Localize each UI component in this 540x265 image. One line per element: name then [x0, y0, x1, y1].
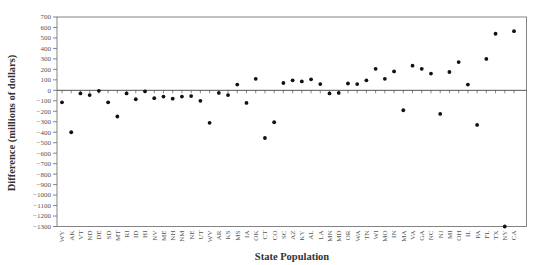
y-tick-label: −900 [37, 181, 52, 189]
y-tick-label: −800 [37, 171, 52, 179]
x-tick-label: OK [252, 231, 260, 241]
x-tick-label: RI [123, 230, 131, 238]
data-point-nc [429, 72, 433, 76]
data-point-la [318, 82, 322, 86]
data-point-pa [475, 123, 479, 127]
data-point-ne [189, 94, 193, 98]
data-point-az [291, 78, 295, 82]
x-axis-title: State Population [255, 251, 330, 262]
y-tick-label: 500 [41, 34, 52, 42]
x-tick-label: CT [261, 230, 269, 240]
data-point-mn [328, 92, 332, 96]
y-tick-label: −200 [37, 108, 52, 116]
y-axis-title: Difference (millions of dollars) [6, 54, 18, 191]
x-tick-label: SC [280, 230, 288, 239]
data-point-sd [106, 100, 110, 104]
x-tick-label: KS [224, 230, 232, 239]
y-tick-label: 300 [41, 55, 52, 63]
data-point-wy [60, 100, 64, 104]
x-tick-label: UT [197, 230, 205, 240]
data-point-ca [512, 29, 516, 33]
x-tick-label: AK [68, 231, 76, 241]
x-tick-label: NY [501, 231, 509, 241]
x-tick-label: NH [169, 231, 177, 241]
y-tick-label: −600 [37, 150, 52, 158]
data-point-fl [484, 57, 488, 61]
x-tick-label: WA [354, 231, 362, 242]
x-tick-label: ID [132, 231, 140, 238]
data-point-mt [115, 115, 119, 119]
x-tick-label: IN [390, 231, 398, 238]
data-point-mi [448, 70, 452, 74]
y-tick-label: 400 [41, 45, 52, 53]
data-point-wv [208, 121, 212, 125]
x-tick-label: MA [400, 231, 408, 242]
y-tick-label: 600 [41, 24, 52, 32]
x-tick-label: FL [483, 231, 491, 239]
x-tick-label: VT [77, 230, 85, 240]
x-tick-label: CO [271, 231, 279, 241]
x-tick-label: MO [381, 231, 389, 242]
y-tick-label: 100 [41, 76, 52, 84]
data-point-nd [88, 93, 92, 97]
x-tick-label: PA [474, 231, 482, 239]
x-tick-label: ME [160, 231, 168, 242]
data-point-in [392, 70, 396, 74]
x-tick-label: AR [215, 230, 223, 240]
x-tick-label: AZ [289, 231, 297, 240]
y-tick-label: −700 [37, 160, 52, 168]
data-point-vt [79, 92, 83, 96]
data-point-oh [457, 60, 461, 64]
data-point-ia [245, 101, 249, 105]
x-tick-label: AL [307, 231, 315, 240]
data-point-ct [263, 136, 267, 140]
data-point-ga [420, 67, 424, 71]
data-point-ms [235, 83, 239, 87]
data-point-co [272, 120, 276, 124]
x-tick-label: DE [95, 231, 103, 240]
data-point-ut [198, 99, 202, 103]
data-point-wa [355, 82, 359, 86]
y-tick-label: −1300 [33, 223, 51, 231]
y-tick-label: −1000 [33, 191, 51, 199]
y-tick-label: 0 [48, 87, 52, 95]
data-point-nv [152, 96, 156, 100]
x-tick-label: NE [188, 231, 196, 240]
data-point-ak [69, 130, 73, 134]
x-tick-label: LA [317, 231, 325, 240]
data-point-nm [180, 95, 184, 99]
x-tick-label: WI [372, 230, 380, 240]
y-tick-label: −1100 [33, 202, 51, 210]
x-tick-label: TX [492, 231, 500, 240]
x-tick-label: OR [344, 230, 352, 240]
y-tick-label: −500 [37, 139, 52, 147]
plot-frame [57, 17, 527, 227]
x-tick-label: MI [446, 230, 454, 239]
data-point-nj [438, 112, 442, 116]
y-tick-label: 700 [41, 13, 52, 21]
data-point-ky [300, 80, 304, 84]
data-point-tx [494, 32, 498, 36]
data-point-nh [171, 97, 175, 101]
x-tick-label: KY [298, 231, 306, 241]
x-tick-labels: WYAKVTNDDESDMTRIIDHINVMENHNMNEUTWVARKSMS… [58, 230, 518, 242]
x-tick-label: MS [234, 230, 242, 240]
data-point-id [134, 97, 138, 101]
data-point-ok [254, 77, 258, 81]
x-tick-label: IL [464, 231, 472, 238]
data-point-hi [143, 89, 147, 93]
x-tick-label: TN [363, 231, 371, 240]
x-tick-label: NJ [437, 230, 445, 238]
x-tick-label: NV [151, 231, 159, 241]
data-point-me [162, 95, 166, 99]
data-point-il [466, 83, 470, 87]
data-points [60, 29, 516, 228]
x-tick-label: MN [326, 231, 334, 242]
scatter-chart: 7006005004003002001000−100−200−300−400−5… [0, 0, 540, 265]
data-point-or [346, 82, 350, 86]
data-point-va [411, 64, 415, 68]
x-tick-label: VA [409, 231, 417, 240]
data-point-de [97, 89, 101, 93]
data-point-wi [374, 67, 378, 71]
data-point-ar [217, 91, 221, 95]
